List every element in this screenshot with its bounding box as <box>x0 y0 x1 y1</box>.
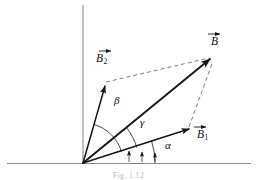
vector-b-resultant <box>83 59 210 163</box>
vector-diagram-figure: B B2 B1 β γ α Fig. 1.12 <box>0 0 257 180</box>
vector-label-b1: B1 <box>197 129 208 141</box>
label-overbars-group <box>99 34 220 127</box>
angle-label-gamma: γ <box>140 117 144 128</box>
angle-label-beta: β <box>114 95 119 106</box>
angle-label-alpha: α <box>165 140 171 151</box>
angle-arc-alpha <box>152 141 156 163</box>
angle-arc-gamma <box>127 128 137 148</box>
dashed-line-b2-to-b <box>106 58 209 82</box>
dashed-line-b1-to-b <box>189 61 213 127</box>
axes-group <box>7 5 251 164</box>
vector-label-b: B <box>211 36 218 48</box>
figure-caption: Fig. 1.12 <box>0 171 257 180</box>
vector-b1 <box>83 129 189 163</box>
diagram-canvas <box>0 0 257 180</box>
angle-arc-beta <box>94 125 122 152</box>
vector-b2 <box>83 86 105 163</box>
construction-lines-group <box>106 58 213 127</box>
vector-label-b2: B2 <box>96 53 107 65</box>
vectors-group <box>83 59 210 163</box>
